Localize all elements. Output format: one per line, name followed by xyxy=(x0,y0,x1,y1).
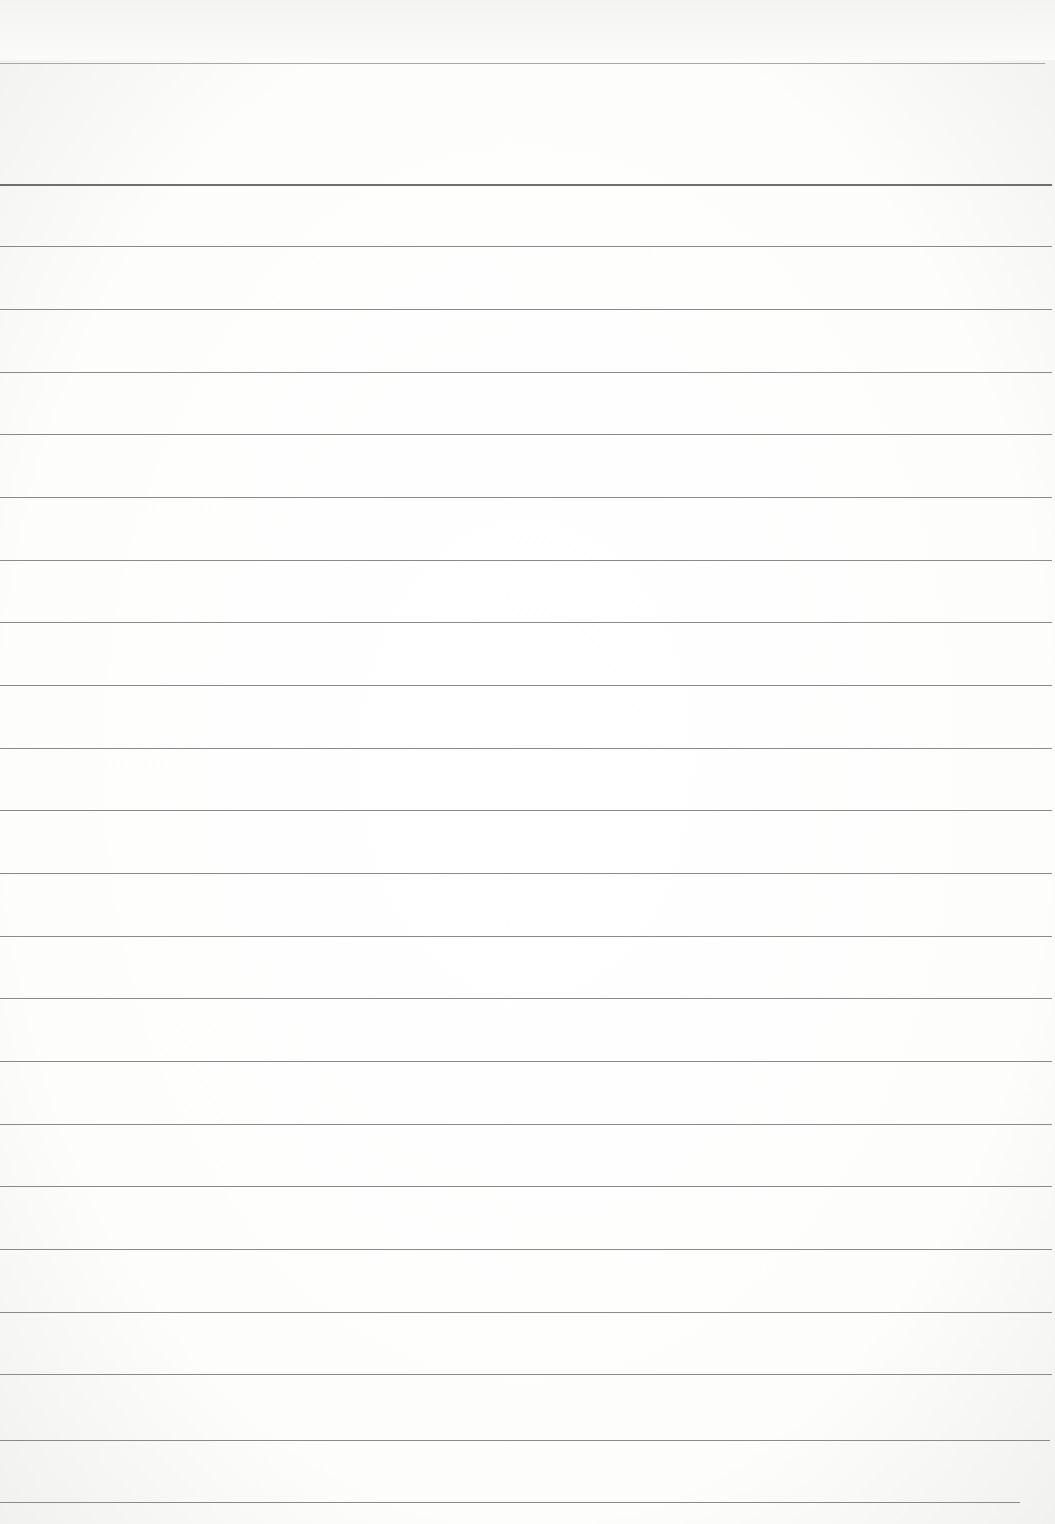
ruled-line xyxy=(0,936,1052,937)
ruled-line xyxy=(0,1249,1052,1250)
ruled-line xyxy=(0,1124,1052,1125)
ruled-line xyxy=(0,246,1052,247)
ruled-line xyxy=(0,1440,1050,1441)
ruled-line xyxy=(0,1061,1052,1062)
ruled-line xyxy=(0,873,1052,874)
header-line xyxy=(0,63,1045,64)
ruled-line xyxy=(0,810,1052,811)
ruled-line xyxy=(0,685,1052,686)
ruled-line xyxy=(0,560,1052,561)
ruled-line xyxy=(0,372,1052,373)
ruled-line xyxy=(0,309,1052,310)
ruled-line xyxy=(0,748,1052,749)
ruled-line xyxy=(0,1312,1052,1313)
ruled-line xyxy=(0,497,1052,498)
ruled-line xyxy=(0,1374,1052,1375)
ruled-line xyxy=(0,622,1052,623)
ruled-line xyxy=(0,1502,1020,1503)
top-margin-line xyxy=(0,184,1052,186)
notebook-page xyxy=(0,0,1055,1524)
page-top-shading xyxy=(0,0,1055,60)
ruled-line xyxy=(0,998,1052,999)
ruled-line xyxy=(0,434,1052,435)
ruled-line xyxy=(0,1186,1052,1187)
